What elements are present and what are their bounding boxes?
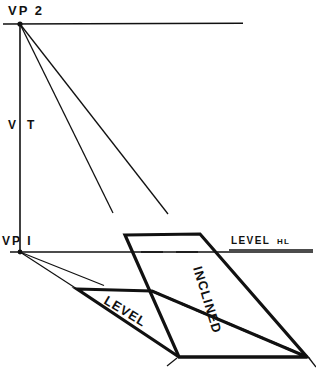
vp2-vertex-dot	[17, 21, 22, 26]
label-vp1: VP I	[2, 234, 32, 248]
label-vt-left: V	[8, 118, 18, 132]
perspective-drawing: VP 2 V T VP I LEVEL HL LEVEL INCLINED	[0, 0, 316, 375]
label-level-hl-suffix: HL	[277, 237, 290, 246]
label-level-hl: LEVEL	[231, 235, 270, 246]
vp1-vertex-dot	[18, 250, 23, 255]
label-vt-right: T	[27, 118, 36, 132]
drawing-background	[0, 0, 316, 375]
label-vp2: VP 2	[8, 3, 44, 18]
top-construction-line	[3, 23, 243, 24]
